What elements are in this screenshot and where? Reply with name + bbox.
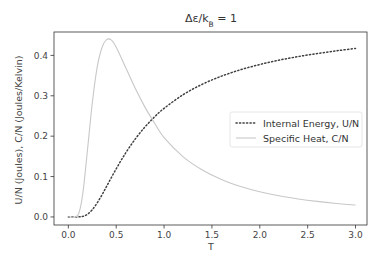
chart: Δε/kB = 1 0.00.51.01.52.02.53.0 0.00.10.…	[0, 0, 386, 271]
x-tick-label: 0.5	[109, 230, 123, 240]
legend-label-internal-energy: Internal Energy, U/N	[263, 118, 359, 129]
y-tick-label: 0.4	[34, 51, 49, 61]
y-tick-label: 0.0	[34, 212, 49, 222]
x-axis: 0.00.51.01.52.02.53.0	[61, 225, 363, 240]
x-tick-label: 2.0	[253, 230, 268, 240]
y-tick-label: 0.1	[34, 172, 48, 182]
x-tick-label: 1.5	[205, 230, 219, 240]
x-tick-label: 1.0	[157, 230, 172, 240]
x-axis-label: T	[207, 241, 214, 252]
legend-label-specific-heat: Specific Heat, C/N	[263, 133, 349, 144]
y-tick-label: 0.2	[34, 131, 48, 141]
y-axis: 0.00.10.20.30.4	[34, 51, 54, 223]
chart-title: Δε/kB = 1	[185, 12, 237, 29]
y-tick-label: 0.3	[34, 91, 48, 101]
y-axis-label: U/N (Joules), C/N (Joules/Kelvin)	[13, 56, 24, 205]
legend: Internal Energy, U/N Specific Heat, C/N	[230, 112, 362, 147]
x-tick-label: 0.0	[61, 230, 76, 240]
x-tick-label: 3.0	[348, 230, 363, 240]
x-tick-label: 2.5	[300, 230, 314, 240]
